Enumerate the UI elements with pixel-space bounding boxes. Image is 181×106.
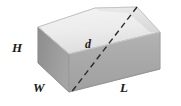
label-width-W: W xyxy=(33,81,45,94)
box-diagram-svg xyxy=(0,0,181,106)
label-height-H: H xyxy=(12,41,22,54)
label-diagonal-d: d xyxy=(85,38,91,50)
label-length-L: L xyxy=(120,81,128,94)
figure-container: H W d L xyxy=(0,0,181,106)
